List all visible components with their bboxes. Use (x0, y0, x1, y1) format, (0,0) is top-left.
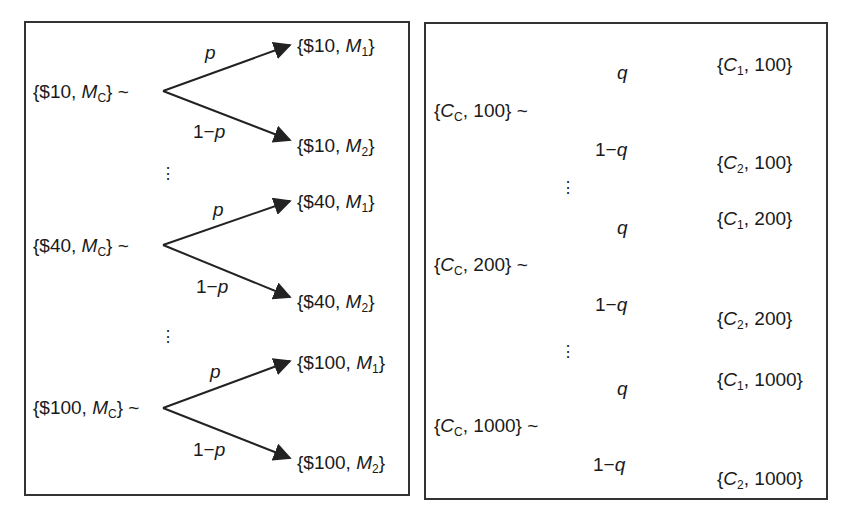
outcome-node-down: {C2, 1000} (717, 469, 803, 491)
outcome-node-down: {C2, 200} (717, 309, 792, 331)
prob-up-label: q (617, 218, 628, 237)
prob-down-label: 1−p (193, 122, 225, 141)
outcome-node-down: {$100, M2} (297, 453, 385, 475)
prob-up-label: q (617, 63, 628, 82)
root-node: {$100, MC} ~ (33, 398, 139, 420)
ellipsis-vertical: ⋮ (560, 348, 566, 355)
root-node: {CC, 100} ~ (434, 101, 528, 123)
outcome-node-up: {C1, 200} (717, 209, 792, 231)
outcome-node-down: {$40, M2} (297, 292, 374, 314)
prob-down-label: 1−q (595, 140, 627, 159)
root-node: {CC, 200} ~ (434, 255, 528, 277)
prob-up-label: q (617, 379, 628, 398)
prob-down-label: 1−p (193, 440, 225, 459)
outcome-node-up: {$10, M1} (297, 36, 374, 58)
ellipsis-vertical: ⋮ (160, 333, 166, 340)
ellipsis-vertical: ⋮ (560, 184, 566, 191)
outcome-node-up: {$100, M1} (297, 353, 385, 375)
root-node: {CC, 1000} ~ (434, 416, 538, 438)
prob-down-label: 1−q (593, 455, 625, 474)
prob-up-label: p (213, 200, 224, 219)
outcome-node-up: {$40, M1} (297, 192, 374, 214)
outcome-node-down: {C2, 100} (717, 153, 792, 175)
prob-down-label: 1−q (595, 295, 627, 314)
outcome-node-down: {$10, M2} (297, 136, 374, 158)
ellipsis-vertical: ⋮ (160, 170, 166, 177)
outcome-node-up: {C1, 100} (717, 55, 792, 77)
outcome-node-up: {C1, 1000} (717, 370, 803, 392)
prob-up-label: p (205, 43, 216, 62)
root-node: {$10, MC} ~ (33, 82, 129, 104)
prob-up-label: p (210, 362, 221, 381)
root-node: {$40, MC} ~ (33, 236, 129, 258)
prob-down-label: 1−p (196, 277, 228, 296)
